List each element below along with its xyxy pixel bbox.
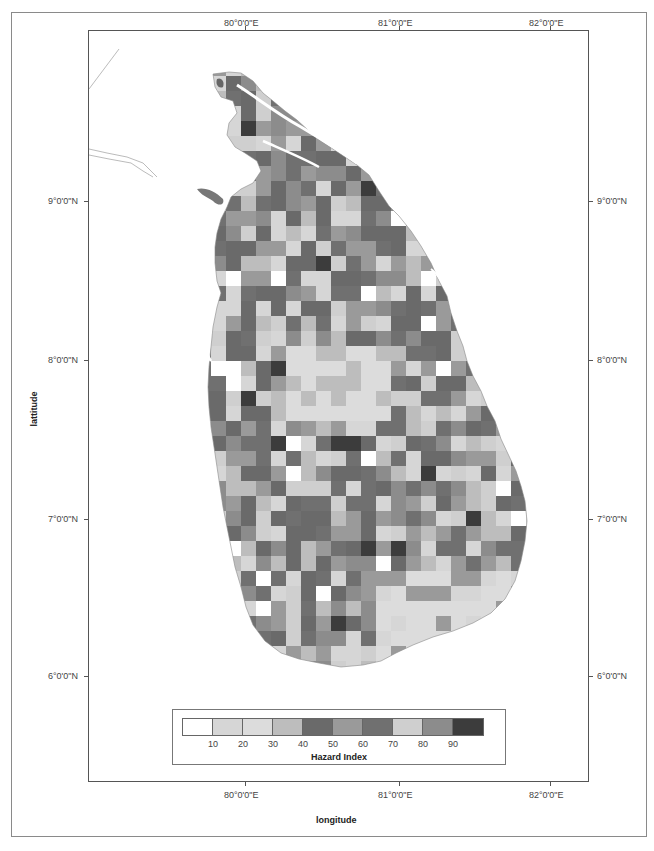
hazard-cell	[211, 421, 226, 436]
hazard-cell	[421, 316, 436, 331]
hazard-cell	[331, 241, 346, 256]
hazard-cell	[436, 556, 451, 571]
hazard-cell	[301, 631, 316, 646]
hazard-cell	[346, 331, 361, 346]
hazard-cell	[451, 586, 466, 601]
hazard-cell	[331, 361, 346, 376]
hazard-cell	[331, 481, 346, 496]
hazard-cell	[466, 331, 481, 346]
hazard-cell	[466, 601, 481, 616]
hazard-cell	[226, 241, 241, 256]
hazard-cell	[301, 511, 316, 526]
hazard-cell	[436, 226, 451, 241]
hazard-cell	[331, 286, 346, 301]
hazard-cell	[331, 226, 346, 241]
hazard-cell	[196, 511, 211, 526]
hazard-cell	[226, 481, 241, 496]
hazard-cell	[346, 256, 361, 271]
hazard-cell	[406, 676, 421, 691]
hazard-cell	[361, 166, 376, 181]
hazard-cell	[511, 421, 526, 436]
hazard-cell	[406, 601, 421, 616]
hazard-cell	[511, 631, 526, 646]
hazard-cell	[271, 661, 286, 676]
map-panel[interactable]	[88, 30, 589, 782]
hazard-cell	[286, 211, 301, 226]
x-tick-top-81: 81°0'0"E	[378, 18, 413, 28]
hazard-cell	[361, 376, 376, 391]
hazard-cell	[466, 556, 481, 571]
hazard-cell	[226, 436, 241, 451]
hazard-cell	[346, 61, 361, 76]
hazard-cell	[301, 646, 316, 661]
hazard-cell	[271, 181, 286, 196]
hazard-cell	[466, 91, 481, 106]
hazard-cell	[466, 406, 481, 421]
hazard-cell	[436, 676, 451, 691]
hazard-cell	[391, 601, 406, 616]
legend-swatch	[423, 719, 453, 735]
hazard-cell	[286, 451, 301, 466]
hazard-cell	[526, 481, 541, 496]
hazard-cell	[406, 616, 421, 631]
hazard-cell	[316, 676, 331, 691]
hazard-cell	[406, 256, 421, 271]
hazard-cell	[346, 316, 361, 331]
hazard-cell	[496, 166, 511, 181]
hazard-cell	[331, 331, 346, 346]
hazard-cell	[346, 211, 361, 226]
hazard-cell	[346, 571, 361, 586]
hazard-map[interactable]	[89, 31, 589, 782]
hazard-cell	[496, 346, 511, 361]
hazard-cell	[391, 271, 406, 286]
legend-tick-label: 40	[298, 739, 308, 749]
hazard-cell	[496, 106, 511, 121]
hazard-cell	[346, 196, 361, 211]
hazard-cell	[256, 556, 271, 571]
hazard-cell	[226, 466, 241, 481]
hazard-cell	[346, 271, 361, 286]
hazard-cell	[226, 361, 241, 376]
hazard-cell	[331, 211, 346, 226]
hazard-cell	[481, 166, 496, 181]
hazard-cell	[286, 661, 301, 676]
hazard-cell	[256, 181, 271, 196]
hazard-cell	[376, 601, 391, 616]
hazard-cell	[226, 601, 241, 616]
hazard-cell	[526, 271, 541, 286]
hazard-cell	[331, 106, 346, 121]
hazard-cell	[406, 436, 421, 451]
hazard-cell	[301, 301, 316, 316]
hazard-cell	[526, 136, 541, 151]
hazard-cell	[316, 316, 331, 331]
hazard-cell	[256, 406, 271, 421]
hazard-cell	[241, 541, 256, 556]
hazard-cell	[331, 526, 346, 541]
hazard-cell	[211, 586, 226, 601]
hazard-cell	[406, 406, 421, 421]
hazard-cell	[376, 61, 391, 76]
hazard-cell	[526, 211, 541, 226]
hazard-cell	[376, 481, 391, 496]
hazard-cell	[241, 181, 256, 196]
hazard-cell	[256, 196, 271, 211]
hazard-cell	[301, 361, 316, 376]
hazard-cell	[511, 676, 526, 691]
hazard-cell	[196, 646, 211, 661]
hazard-cell	[421, 481, 436, 496]
legend-swatch	[363, 719, 393, 735]
hazard-cell	[196, 451, 211, 466]
hazard-cell	[196, 76, 211, 91]
hazard-cell	[211, 601, 226, 616]
hazard-cell	[496, 571, 511, 586]
hazard-cell	[526, 121, 541, 136]
hazard-cell	[316, 211, 331, 226]
hazard-cell	[376, 271, 391, 286]
hazard-cell	[511, 481, 526, 496]
hazard-cell	[511, 196, 526, 211]
hazard-cell	[196, 406, 211, 421]
hazard-cell	[406, 166, 421, 181]
hazard-cell	[211, 136, 226, 151]
hazard-cell	[391, 466, 406, 481]
hazard-cell	[451, 436, 466, 451]
